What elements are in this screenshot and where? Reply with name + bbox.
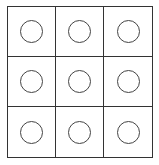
- empty-circle-icon: [117, 20, 140, 43]
- empty-circle-icon: [68, 20, 91, 43]
- empty-circle-icon: [68, 121, 91, 144]
- board-cell-r1-c1[interactable]: [56, 57, 104, 107]
- board-cell-r0-c0[interactable]: [8, 7, 56, 57]
- empty-circle-icon: [20, 20, 43, 43]
- empty-circle-icon: [20, 70, 43, 93]
- empty-circle-icon: [117, 121, 140, 144]
- board-cell-r2-c1[interactable]: [56, 107, 104, 157]
- board-cell-r1-c0[interactable]: [8, 57, 56, 107]
- board-cell-r0-c1[interactable]: [56, 7, 104, 57]
- board-cell-r2-c2[interactable]: [104, 107, 152, 157]
- empty-circle-icon: [68, 70, 91, 93]
- board-cell-r1-c2[interactable]: [104, 57, 152, 107]
- game-board: [7, 6, 153, 158]
- empty-circle-icon: [117, 70, 140, 93]
- empty-circle-icon: [20, 121, 43, 144]
- board-cell-r0-c2[interactable]: [104, 7, 152, 57]
- board-cell-r2-c0[interactable]: [8, 107, 56, 157]
